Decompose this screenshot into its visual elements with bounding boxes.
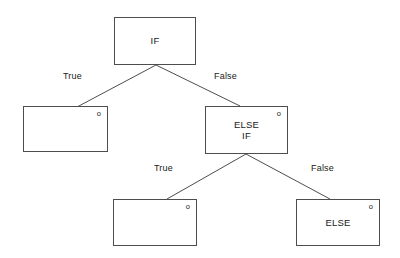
node-else[interactable]: ELSE o (296, 199, 380, 246)
edge-elseif-to-false (246, 154, 330, 199)
edge-label-if-true: True (63, 71, 82, 82)
node-else-if[interactable]: ELSE IF o (205, 106, 288, 154)
node-else-if-true-branch[interactable]: o (113, 199, 197, 246)
node-else-label: ELSE (325, 217, 350, 229)
anchor-marker-icon: o (186, 202, 190, 211)
edge-label-else-if-true: True (154, 163, 173, 174)
anchor-marker-icon: o (369, 202, 373, 211)
edge-if-to-true (77, 65, 156, 107)
edge-elseif-to-true (167, 154, 246, 199)
anchor-marker-icon: o (97, 109, 101, 118)
anchor-marker-icon: o (277, 109, 281, 118)
node-else-if-label: ELSE IF (234, 119, 259, 142)
edge-label-if-false: False (214, 71, 237, 82)
diagram-canvas: IF o ELSE IF o o ELSE o True False True … (0, 0, 400, 258)
node-if[interactable]: IF (114, 17, 196, 65)
edge-label-else-if-false: False (311, 163, 334, 174)
node-if-true-branch[interactable]: o (23, 106, 108, 152)
node-if-label: IF (151, 35, 160, 47)
